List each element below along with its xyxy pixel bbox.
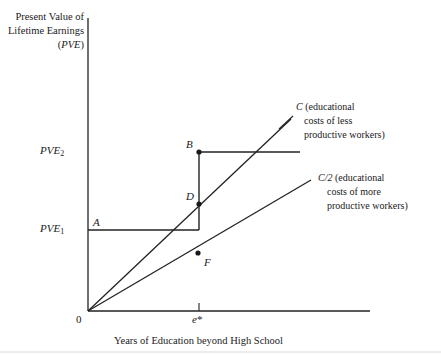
y-tick-label-pve2-subscript: 2: [60, 149, 64, 158]
point-f-label: F: [204, 256, 211, 269]
y-tick-label-pve1: PVE1: [40, 222, 64, 237]
y-axis-title: Present Value ofLifetime Earnings(PVE): [0, 10, 84, 52]
curve-c-symbol: C: [296, 101, 303, 112]
point-a-label: A: [93, 216, 100, 229]
x-axis-title: Years of Education beyond High School: [114, 335, 283, 348]
curve-c-leader-line: [279, 116, 293, 129]
curve-c-text-line1: (educational: [305, 101, 354, 112]
figure-canvas: Present Value ofLifetime Earnings(PVE) P…: [0, 0, 441, 358]
curve-c2-text-line3: productive workers): [318, 199, 408, 213]
y-tick-label-pve2-text: PVE: [40, 144, 60, 156]
curve-c-text-line2: costs of less: [296, 114, 385, 128]
x-tick-label-e-star-superscript: *: [197, 313, 203, 325]
curve-c2-text-line1: (educational: [335, 172, 384, 183]
curve-c-text-line3: productive workers): [296, 128, 385, 142]
origin-label: 0: [76, 313, 82, 326]
x-tick-label-e-star: e*: [192, 313, 202, 326]
y-tick-label-pve1-text: PVE: [40, 222, 60, 234]
curve-c2-text-line2: costs of more: [318, 185, 408, 199]
point-b-marker: [196, 149, 201, 154]
curve-c-annotation: C (educationalcosts of lessproductive wo…: [296, 100, 385, 141]
curve-c2-annotation: C/2 (educationalcosts of moreproductive …: [318, 171, 408, 212]
point-f-marker: [195, 250, 200, 255]
y-tick-label-pve2: PVE2: [40, 144, 64, 159]
y-tick-label-pve1-subscript: 1: [60, 227, 64, 236]
curve-c2-symbol: C/2: [318, 172, 332, 183]
y-axis-title-symbol: PVE: [61, 39, 80, 50]
point-d-marker: [196, 201, 201, 206]
y-axis-title-line1: Present Value of: [15, 11, 84, 22]
y-axis-title-line2: Lifetime Earnings: [8, 25, 84, 36]
point-b-label: B: [186, 138, 193, 151]
point-d-label: D: [186, 190, 194, 203]
